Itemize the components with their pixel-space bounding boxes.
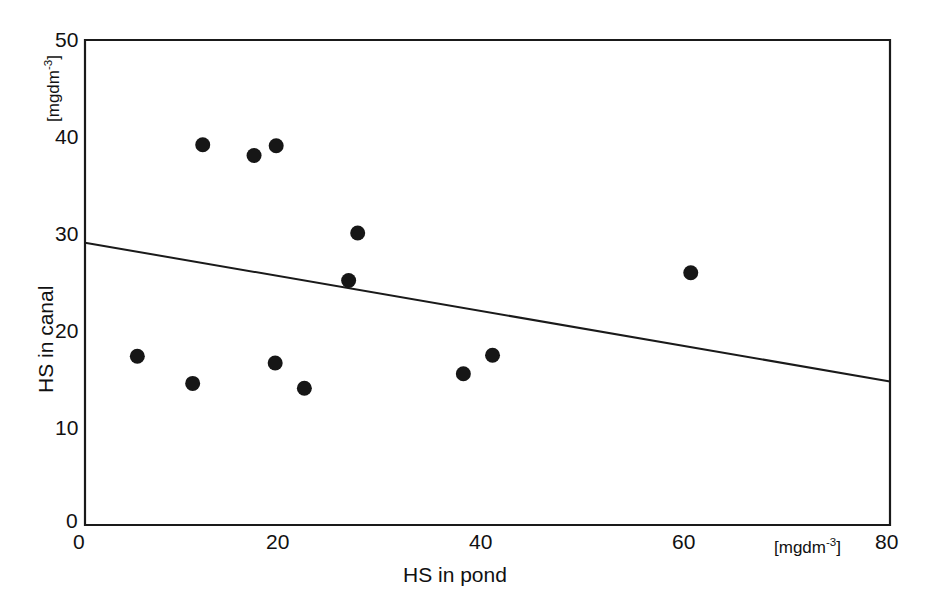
scatter-chart: [mgdm-3] HS in canal 50 40 30 20 10 0 0 … xyxy=(0,0,926,604)
data-point xyxy=(485,348,500,363)
data-point xyxy=(185,376,200,391)
data-point xyxy=(268,356,283,371)
plot-frame xyxy=(85,40,890,525)
data-point xyxy=(456,366,471,381)
plot-area xyxy=(0,0,926,604)
data-point xyxy=(350,226,365,241)
data-point xyxy=(269,138,284,153)
data-point xyxy=(341,273,356,288)
data-points-group xyxy=(130,137,698,395)
data-point xyxy=(130,349,145,364)
data-point xyxy=(683,265,698,280)
data-point xyxy=(247,148,262,163)
data-point xyxy=(297,381,312,396)
data-point xyxy=(195,137,210,152)
